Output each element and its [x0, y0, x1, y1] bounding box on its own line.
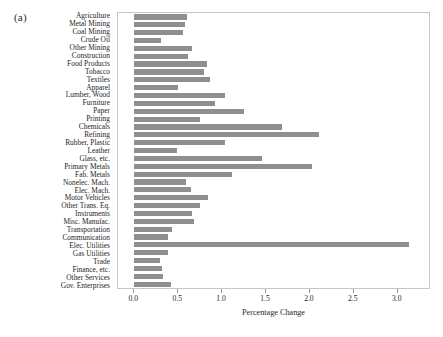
- x-tick-label: 1.0: [216, 294, 226, 303]
- bar-row: [118, 233, 429, 241]
- bar: [134, 54, 188, 59]
- bar: [134, 187, 191, 192]
- bar: [134, 266, 161, 271]
- panel-label: (a): [14, 11, 27, 23]
- bar: [134, 109, 244, 114]
- bar-row: [118, 107, 429, 115]
- bar: [134, 179, 186, 184]
- bar: [134, 227, 172, 232]
- bar: [134, 203, 200, 208]
- bar: [134, 211, 192, 216]
- x-tick-mark: [133, 289, 134, 293]
- bar: [134, 250, 167, 255]
- bar-row: [118, 131, 429, 139]
- plot-frame: [117, 12, 430, 289]
- bar: [134, 101, 215, 106]
- bar: [134, 77, 210, 82]
- bar-row: [118, 217, 429, 225]
- bar: [134, 234, 167, 239]
- figure-panel: (a) AgricultureMetal MiningCoal MiningCr…: [0, 0, 443, 337]
- bar: [134, 274, 163, 279]
- bar-row: [118, 60, 429, 68]
- bar: [134, 69, 203, 74]
- x-tick-mark: [265, 289, 266, 293]
- bar: [134, 22, 185, 27]
- x-tick-mark: [177, 289, 178, 293]
- x-tick-mark: [397, 289, 398, 293]
- bar: [134, 172, 231, 177]
- bar-row: [118, 115, 429, 123]
- bar: [134, 195, 208, 200]
- category-axis: AgricultureMetal MiningCoal MiningCrude …: [30, 12, 113, 289]
- bar: [134, 140, 224, 145]
- bar: [134, 164, 311, 169]
- bar: [134, 148, 177, 153]
- bar-row: [118, 139, 429, 147]
- bar-row: [118, 76, 429, 84]
- bar: [134, 93, 224, 98]
- bars-area: [118, 13, 429, 288]
- bar-row: [118, 84, 429, 92]
- x-tick-label: 2.0: [304, 294, 314, 303]
- x-tick-label: 1.5: [260, 294, 270, 303]
- bar-row: [118, 202, 429, 210]
- bar: [134, 46, 192, 51]
- x-tick-mark: [353, 289, 354, 293]
- bar-row: [118, 178, 429, 186]
- x-axis-title: Percentage Change: [117, 308, 430, 317]
- bar-row: [118, 257, 429, 265]
- bar-row: [118, 21, 429, 29]
- bar-row: [118, 249, 429, 257]
- bar: [134, 132, 318, 137]
- bar: [134, 219, 194, 224]
- bar: [134, 282, 171, 287]
- bar-row: [118, 272, 429, 280]
- x-tick-label: 0.0: [129, 294, 139, 303]
- bar-row: [118, 265, 429, 273]
- bar-row: [118, 147, 429, 155]
- x-axis: Percentage Change 0.00.51.01.52.02.53.0: [117, 289, 430, 335]
- bar: [134, 85, 178, 90]
- bar-row: [118, 225, 429, 233]
- x-tick-mark: [221, 289, 222, 293]
- bar-row: [118, 241, 429, 249]
- category-label: Gov. Enterprises: [30, 281, 113, 289]
- bar: [134, 38, 160, 43]
- x-tick-label: 3.0: [392, 294, 402, 303]
- bar-row: [118, 170, 429, 178]
- bar-row: [118, 209, 429, 217]
- bar-row: [118, 37, 429, 45]
- bar-row: [118, 154, 429, 162]
- bar-row: [118, 52, 429, 60]
- bar-row: [118, 13, 429, 21]
- x-tick-label: 0.5: [172, 294, 182, 303]
- bar: [134, 14, 187, 19]
- bar-row: [118, 44, 429, 52]
- bar: [134, 117, 200, 122]
- bar-row: [118, 280, 429, 288]
- bar: [134, 61, 207, 66]
- bar: [134, 124, 282, 129]
- bar: [134, 30, 183, 35]
- bar-row: [118, 162, 429, 170]
- x-tick-label: 2.5: [348, 294, 358, 303]
- x-tick-mark: [309, 289, 310, 293]
- bar: [134, 156, 261, 161]
- bar-row: [118, 186, 429, 194]
- bar-row: [118, 99, 429, 107]
- bar-row: [118, 92, 429, 100]
- bar-row: [118, 68, 429, 76]
- bar-row: [118, 194, 429, 202]
- bar-row: [118, 123, 429, 131]
- bar: [134, 258, 159, 263]
- bar-row: [118, 29, 429, 37]
- bar: [134, 242, 409, 247]
